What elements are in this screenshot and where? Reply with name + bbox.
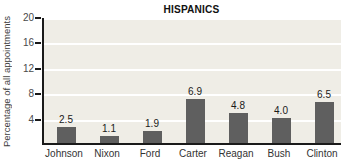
gridline-y16 — [44, 43, 341, 45]
y-tick-16 — [35, 42, 41, 44]
bar-value-label-reagan: 4.8 — [231, 100, 245, 111]
bar-johnson — [57, 127, 76, 143]
bar-ford — [143, 131, 162, 143]
y-tick-label-4: 4 — [10, 114, 34, 125]
chart-title: HISPANICS — [54, 3, 329, 15]
y-tick-label-8: 8 — [10, 88, 34, 99]
x-tick-label-nixon: Nixon — [94, 148, 120, 159]
bar-chart: HISPANICS Percentage of all appointments… — [0, 0, 345, 168]
y-tick-label-12: 12 — [10, 63, 34, 74]
bar-nixon — [100, 136, 119, 143]
plot-area: 2.51.11.96.94.84.06.5 — [42, 18, 341, 145]
x-tick-label-carter: Carter — [179, 148, 207, 159]
bar-carter — [186, 99, 205, 143]
y-tick-12 — [35, 68, 41, 70]
x-tick-label-ford: Ford — [140, 148, 161, 159]
y-tick-8 — [35, 93, 41, 95]
y-tick-4 — [35, 119, 41, 121]
bar-reagan — [229, 113, 248, 143]
gridline-y12 — [44, 69, 341, 71]
bar-bush — [272, 118, 291, 143]
bar-value-label-johnson: 2.5 — [59, 114, 73, 125]
gridline-y20 — [44, 18, 341, 20]
x-tick-label-johnson: Johnson — [45, 148, 83, 159]
x-tick-label-clinton: Clinton — [306, 148, 337, 159]
y-tick-label-20: 20 — [10, 12, 34, 23]
x-tick-label-reagan: Reagan — [218, 148, 253, 159]
bar-value-label-carter: 6.9 — [188, 86, 202, 97]
y-tick-label-16: 16 — [10, 37, 34, 48]
y-tick-20 — [35, 17, 41, 19]
bar-value-label-bush: 4.0 — [274, 105, 288, 116]
bar-value-label-nixon: 1.1 — [102, 123, 116, 134]
bar-value-label-clinton: 6.5 — [317, 89, 331, 100]
bar-clinton — [315, 102, 334, 143]
bar-value-label-ford: 1.9 — [145, 118, 159, 129]
x-tick-label-bush: Bush — [268, 148, 291, 159]
